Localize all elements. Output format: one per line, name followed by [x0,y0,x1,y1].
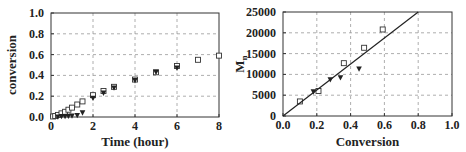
x-axis-label: Time (hour) [101,134,168,149]
plot-frame [283,12,452,116]
x-tick-label: 0.2 [309,118,324,132]
data-point-square [75,102,80,107]
y-tick-label: 1.0 [29,6,44,20]
y-tick-label: 0 [270,109,276,123]
x-tick-label: 0.6 [377,118,392,132]
data-point-triangle [80,110,86,115]
x-tick-label: 0.4 [343,118,358,132]
data-point-square [341,61,346,66]
data-point-triangle [356,66,362,71]
charts-canvas: 024680.00.20.40.60.81.0Time (hour)conver… [0,0,466,152]
data-point-square [380,27,385,32]
y-tick-label: 0.2 [29,89,44,103]
y-tick-label: 20000 [246,26,276,40]
x-tick-label: 2 [90,119,96,133]
y-axis-label: Mn [232,55,249,72]
x-tick-label: 0.0 [276,118,291,132]
mn-vs-conversion-chart: 0.00.20.40.60.81.00500010000150002000025… [232,5,460,149]
y-axis-label: conversion [4,34,19,95]
plot-frame [51,13,219,117]
x-tick-label: 1.0 [445,118,460,132]
y-axis-label-subscript: n [239,55,249,60]
x-axis-label: Conversion [336,134,400,149]
x-tick-label: 0.8 [411,118,426,132]
data-point-square [196,57,201,62]
data-point-triangle [90,96,96,101]
data-point-square [217,53,222,58]
y-tick-label: 10000 [246,67,276,81]
x-tick-label: 0 [48,119,54,133]
figure: 024680.00.20.40.60.81.0Time (hour)conver… [0,0,466,152]
data-point-triangle [69,113,75,118]
fit-line [283,12,418,116]
data-point-triangle [338,75,344,80]
y-tick-label: 25000 [246,5,276,19]
conversion-vs-time-chart: 024680.00.20.40.60.81.0Time (hour)conver… [4,6,222,149]
y-tick-label: 0.0 [29,110,44,124]
x-tick-label: 4 [132,119,138,133]
y-tick-label: 15000 [246,47,276,61]
data-point-square [80,99,85,104]
x-tick-label: 8 [216,119,222,133]
y-tick-label: 0.6 [29,48,44,62]
data-point-square [70,105,75,110]
y-tick-label: 0.4 [29,68,44,82]
data-point-square [362,45,367,50]
y-tick-label: 0.8 [29,27,44,41]
y-tick-label: 5000 [252,88,276,102]
x-tick-label: 6 [174,119,180,133]
